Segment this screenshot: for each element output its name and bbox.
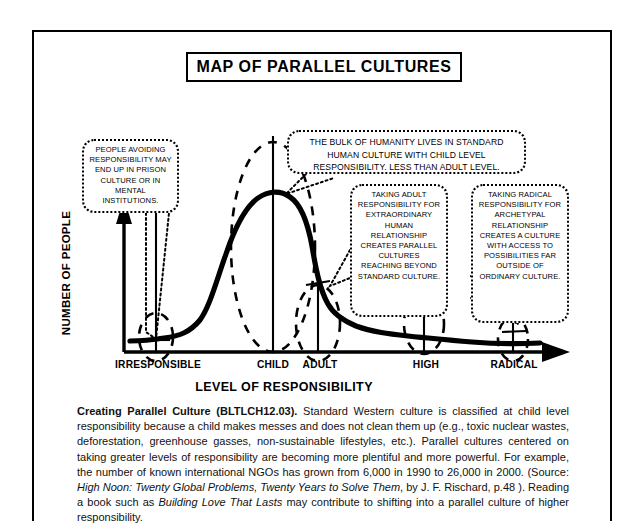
y-axis-title: NUMBER OF PEOPLE xyxy=(60,203,72,343)
x-tick-label-radical: RADICAL xyxy=(471,359,557,370)
callout-adult-responsibility: TAKING ADULT RESPONSIBILITY FOR EXTRAORD… xyxy=(350,184,448,317)
body-paragraph: Creating Parallel Culture (BLTLCH12.03).… xyxy=(77,404,569,526)
x-tick-label-irresponsible: IRRESPONSIBLE xyxy=(98,359,218,370)
body-source-title-1: High Noon: Twenty Global Problems, Twent… xyxy=(77,481,400,493)
category-marker-ellipses xyxy=(139,142,528,361)
body-source-title-2: Building Love That Lasts xyxy=(158,496,282,508)
callout-radical-responsibility: TAKING RADICAL RESPONSIBILITY FOR ARCHET… xyxy=(471,184,569,323)
body-lead: Creating Parallel Culture (BLTLCH12.03). xyxy=(77,405,297,417)
x-tick-label-adult: ADULT xyxy=(280,359,360,370)
callout-bulk-of-humanity: THE BULK OF HUMANITY LIVES IN STANDARD H… xyxy=(287,130,526,174)
x-axis-title: LEVEL OF RESPONSIBILITY xyxy=(34,380,534,394)
x-tick-label-high: HIGH xyxy=(386,359,466,370)
callout-avoiding-responsibility: PEOPLE AVOIDING RESPONSIBILITY MAY END U… xyxy=(82,139,179,213)
document-page-frame: MAP OF PARALLEL CULTURES xyxy=(32,30,612,521)
